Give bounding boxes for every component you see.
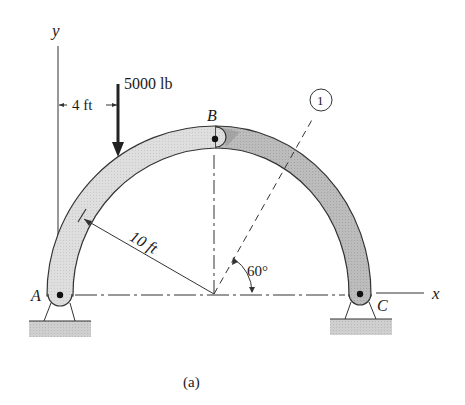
offset-label: 4 ft	[72, 97, 93, 113]
pin-c	[357, 291, 363, 297]
arch-diagram: y x 5000 lb 4 ft B A C 10 ft 60° 1 (a)	[0, 0, 465, 405]
section-marker-label: 1	[317, 93, 324, 108]
figure-caption: (a)	[183, 374, 200, 391]
point-c-label: C	[377, 297, 388, 314]
y-axis-label: y	[50, 21, 60, 40]
left-arch-member	[47, 126, 216, 296]
support-a	[29, 303, 91, 337]
right-arch-member	[216, 126, 371, 296]
x-axis-label: x	[431, 284, 440, 303]
pin-a	[57, 292, 63, 298]
three-hinged-arch-figure: y x 5000 lb 4 ft B A C 10 ft 60° 1 (a)	[0, 0, 465, 405]
load-arrow	[112, 84, 124, 157]
load-label: 5000 lb	[124, 75, 172, 92]
x-axis	[75, 293, 424, 295]
point-a-label: A	[30, 287, 41, 304]
point-b-label: B	[207, 107, 217, 124]
hinge-b-pin	[212, 136, 218, 142]
angle-label: 60°	[247, 263, 268, 279]
